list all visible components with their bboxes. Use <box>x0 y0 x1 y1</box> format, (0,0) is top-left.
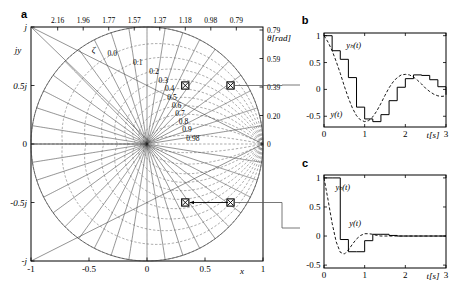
y-tick-label: 0.5j <box>13 81 27 91</box>
x-tick-label: 3 <box>444 270 449 280</box>
y-tick-label: 0 <box>316 231 321 241</box>
right-tick-label: 0.59 <box>267 55 280 64</box>
y-tick-label: 0 <box>23 139 28 149</box>
top-tick-label: 1.57 <box>128 16 141 25</box>
panel-c-continuous-label: y(t) <box>348 218 361 228</box>
panel-b-x-axis-label: t[s] <box>426 130 440 140</box>
y-tick-label: 1 <box>316 173 321 183</box>
x-tick-label: 0.5 <box>199 264 211 274</box>
x-tick-label: 0 <box>322 270 327 280</box>
figure-canvas: -1-0.500.51j0.5j0-0.5j-jjyx2.161.961.771… <box>0 0 459 297</box>
y-tick-label: 1 <box>316 31 321 41</box>
panel-b-continuous-label: y(t) <box>330 109 343 119</box>
panel-b-sampled-label: yₕ(t) <box>345 40 361 50</box>
zeta-contour-label: 0.0 <box>108 49 118 58</box>
y-tick-label: -j <box>22 256 28 266</box>
zeta-contour-label: 0.98 <box>186 134 199 143</box>
zeta-contour-label: 0.1 <box>133 58 143 67</box>
y-tick-label: 0.5 <box>309 58 321 68</box>
right-tick-label: 0.20 <box>267 112 280 121</box>
figure-root: -1-0.500.51j0.5j0-0.5j-jjyx2.161.961.771… <box>0 0 459 297</box>
x-tick-label: 0 <box>322 129 327 139</box>
pole-marker[interactable] <box>182 82 189 89</box>
panel-a <box>31 27 263 261</box>
top-tick-label: 1.18 <box>179 16 192 25</box>
y-tick-label: -0.5 <box>306 111 321 121</box>
top-tick-label: 0.79 <box>230 16 243 25</box>
panel-a-letter: a <box>21 8 28 20</box>
y-axis-name: jy <box>14 45 22 55</box>
panel-c-x-axis-label: t[s] <box>426 271 440 281</box>
right-axis-name: θ[rad] <box>267 33 291 43</box>
x-tick-label: 1 <box>362 270 367 280</box>
right-tick-label: 0.39 <box>267 83 280 92</box>
top-tick-label: 2.16 <box>51 16 64 25</box>
top-tick-label: 0.98 <box>204 16 217 25</box>
panel-c-sampled-label: yₕ(t) <box>334 182 350 192</box>
y-tick-label: 0.5 <box>309 202 321 212</box>
x-axis-name: x <box>239 266 244 276</box>
x-tick-label: 2 <box>403 270 408 280</box>
top-tick-label: 1.77 <box>102 16 115 25</box>
pole-marker[interactable] <box>182 199 189 206</box>
top-tick-label: 1.96 <box>77 16 90 25</box>
right-tick-label: 0 <box>267 140 271 149</box>
x-tick-label: -0.5 <box>82 264 97 274</box>
x-tick-label: -1 <box>27 264 35 274</box>
y-tick-label: -0.5 <box>306 260 321 270</box>
x-tick-label: 1 <box>261 264 266 274</box>
panel-c-letter: c <box>302 157 308 169</box>
y-tick-label: -0.5j <box>10 198 27 208</box>
panel-b-letter: b <box>302 14 309 26</box>
x-tick-label: 0 <box>145 264 150 274</box>
x-tick-label: 2 <box>403 129 408 139</box>
top-tick-label: 1.37 <box>153 16 166 25</box>
y-tick-label: 0 <box>316 84 321 94</box>
x-tick-label: 1 <box>362 129 367 139</box>
pole-marker[interactable] <box>227 82 234 89</box>
x-tick-label: 3 <box>444 129 449 139</box>
zeta-contour-label: 0.2 <box>149 67 159 76</box>
y-tick-label: j <box>23 22 27 32</box>
